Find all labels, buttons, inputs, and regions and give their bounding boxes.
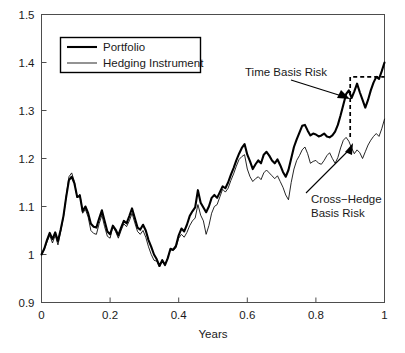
legend-label-hedging-instrument: Hedging Instrument — [103, 57, 204, 69]
figure-container: 0.911.11.21.31.41.5 00.20.40.60.81 Time … — [0, 0, 405, 353]
x-tick-label: 0.6 — [239, 309, 255, 321]
x-axis-title: Years — [199, 328, 228, 340]
x-tick-label: 1 — [381, 309, 387, 321]
y-axis-ticks: 0.911.11.21.31.41.5 — [19, 9, 47, 309]
legend-label-portfolio: Portfolio — [103, 41, 145, 53]
line-chart: 0.911.11.21.31.41.5 00.20.40.60.81 Time … — [0, 0, 405, 353]
annotation-cross-hedge-line2: Basis Risk — [311, 207, 365, 219]
annotation-time-basis-risk: Time Basis Risk — [245, 66, 350, 99]
chart-legend: Portfolio Hedging Instrument — [61, 38, 205, 73]
y-tick-label: 1 — [28, 249, 34, 261]
y-tick-label: 1.1 — [19, 201, 35, 213]
annotation-cross-hedge-arrow-shaft — [306, 148, 351, 193]
x-tick-label: 0 — [38, 309, 44, 321]
x-axis-ticks: 00.20.40.60.81 — [38, 298, 387, 321]
annotation-cross-hedge-line1: Cross−Hedge — [311, 193, 382, 205]
x-tick-label: 0.2 — [102, 309, 118, 321]
x-tick-label: 0.8 — [308, 309, 324, 321]
annotation-time-basis-risk-label: Time Basis Risk — [245, 66, 327, 78]
y-tick-label: 0.9 — [19, 297, 35, 309]
annotation-cross-hedge-basis-risk: Cross−Hedge Basis Risk — [306, 143, 382, 219]
y-tick-label: 1.5 — [19, 9, 35, 21]
y-tick-label: 1.3 — [19, 105, 35, 117]
annotation-time-basis-risk-arrow-shaft — [291, 80, 345, 97]
y-tick-label: 1.2 — [19, 153, 35, 165]
y-tick-label: 1.4 — [19, 57, 36, 69]
x-tick-label: 0.4 — [171, 309, 188, 321]
